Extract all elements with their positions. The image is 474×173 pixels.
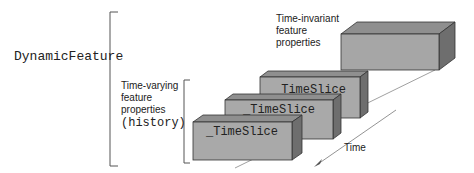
invariant-label: Time-invariant feature properties [276, 13, 339, 48]
root-label: DynamicFeature [14, 49, 123, 64]
timeslice-box-1: _TimeSlice [193, 115, 302, 160]
svg-text:properties: properties [276, 37, 320, 48]
svg-text:Time-varying: Time-varying [121, 80, 178, 91]
outer-bracket [110, 12, 118, 166]
invariant-box [341, 22, 455, 70]
svg-text:properties: properties [121, 104, 165, 115]
svg-text:_TimeSlice: _TimeSlice [205, 125, 278, 139]
varying-label: Time-varying feature properties (history… [121, 80, 186, 130]
svg-text:Time-invariant: Time-invariant [276, 13, 339, 24]
svg-text:feature: feature [276, 25, 308, 36]
time-label: Time [344, 142, 366, 153]
svg-text:(history): (history) [121, 116, 186, 130]
diagram-canvas: DynamicFeature Time-varying feature prop… [0, 0, 474, 173]
svg-text:feature: feature [121, 92, 153, 103]
time-arrow-head [314, 159, 322, 167]
